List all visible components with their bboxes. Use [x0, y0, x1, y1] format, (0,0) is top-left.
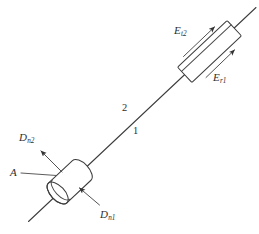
label-dn1-sub: n1: [108, 214, 115, 222]
label-er1-sub: r1: [220, 77, 226, 85]
upper-prism-body: [178, 21, 242, 83]
label-dn2-sub: n2: [27, 137, 34, 145]
label-et2-base: E: [174, 24, 181, 36]
label-et2: Et2: [174, 25, 186, 36]
label-er1: Er1: [213, 72, 226, 83]
label-dn2: Dn2: [19, 132, 34, 143]
label-point-a: A: [10, 167, 17, 178]
label-er1-base: E: [213, 71, 220, 83]
label-dn2-base: D: [19, 131, 27, 143]
arrow-dn1: [80, 188, 100, 205]
label-ray-1: 1: [133, 126, 138, 137]
figure-canvas: Et2 Er1 Dn2 Dn1 A 2 1: [0, 0, 259, 234]
arrow-dn2: [41, 151, 62, 172]
label-dn1: Dn1: [100, 209, 115, 220]
label-et2-sub: t2: [181, 30, 187, 38]
label-dn1-base: D: [100, 208, 108, 220]
label-ray-2: 2: [122, 103, 127, 114]
leader-line-a: [21, 173, 57, 176]
diagram-svg: [0, 0, 259, 234]
